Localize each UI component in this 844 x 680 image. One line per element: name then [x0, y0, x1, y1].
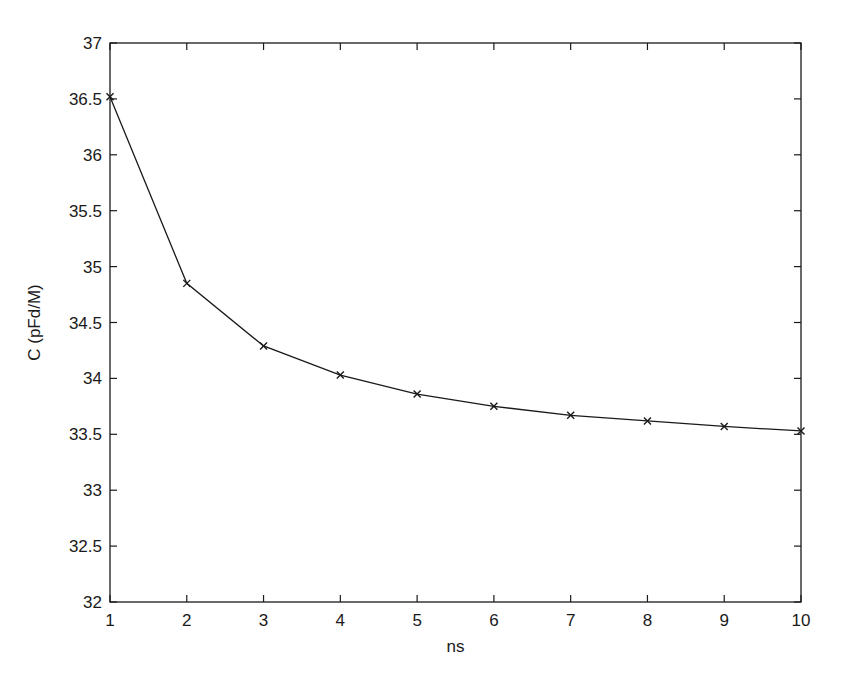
x-tick-label: 10	[792, 611, 811, 630]
plot-border	[110, 43, 801, 602]
x-tick-label: 5	[412, 611, 421, 630]
y-axis-ticks: 3232.53333.53434.53535.53636.537	[69, 34, 801, 612]
x-tick-label: 7	[566, 611, 575, 630]
y-axis-label: C (pFd/M)	[25, 284, 44, 361]
series-line	[110, 97, 801, 431]
x-tick-label: 8	[643, 611, 652, 630]
x-tick-label: 6	[489, 611, 498, 630]
data-series	[107, 93, 805, 434]
y-tick-label: 37	[83, 34, 102, 53]
x-marker-icon	[260, 342, 267, 349]
x-tick-label: 2	[182, 611, 191, 630]
x-axis-label: ns	[447, 637, 465, 656]
x-tick-label: 4	[336, 611, 345, 630]
x-marker-icon	[183, 280, 190, 287]
line-chart: 12345678910 3232.53333.53434.53535.53636…	[0, 0, 844, 680]
y-tick-label: 32	[83, 593, 102, 612]
axes-frame	[110, 43, 801, 602]
x-axis-ticks: 12345678910	[105, 43, 810, 630]
y-tick-label: 35.5	[69, 202, 102, 221]
y-tick-label: 34	[83, 369, 102, 388]
y-tick-label: 36.5	[69, 90, 102, 109]
y-tick-label: 34.5	[69, 314, 102, 333]
x-tick-label: 9	[719, 611, 728, 630]
y-tick-label: 36	[83, 146, 102, 165]
y-tick-label: 35	[83, 258, 102, 277]
y-tick-label: 32.5	[69, 537, 102, 556]
y-tick-label: 33	[83, 481, 102, 500]
x-tick-label: 1	[105, 611, 114, 630]
y-tick-label: 33.5	[69, 425, 102, 444]
x-tick-label: 3	[259, 611, 268, 630]
